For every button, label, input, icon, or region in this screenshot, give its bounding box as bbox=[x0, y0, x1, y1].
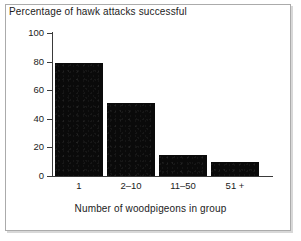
y-axis-tick-label: 100 bbox=[0, 28, 44, 37]
bar bbox=[159, 155, 207, 176]
y-axis-tick-label-text: 40 bbox=[0, 114, 44, 123]
y-axis-tick-label-text: 80 bbox=[0, 57, 44, 66]
x-axis-tick-label: 51 + bbox=[211, 180, 259, 191]
x-axis-tick-label: 11–50 bbox=[159, 180, 207, 191]
x-axis-tick-label: 1 bbox=[55, 180, 103, 191]
y-axis-tick-label-text: 60 bbox=[0, 85, 44, 94]
y-axis-tick bbox=[47, 176, 52, 177]
y-axis-tick-label: 60 bbox=[0, 85, 44, 94]
y-axis-tick-label: 20 bbox=[0, 142, 44, 151]
x-axis-title: Number of woodpigeons in group bbox=[0, 203, 301, 214]
y-axis-tick-label: 40 bbox=[0, 114, 44, 123]
chart-title: Percentage of hawk attacks successful bbox=[9, 6, 187, 17]
x-axis-tick-label: 2–10 bbox=[107, 180, 155, 191]
x-axis-line bbox=[52, 176, 273, 177]
bar bbox=[55, 63, 103, 176]
plot-area bbox=[52, 33, 272, 176]
y-axis-tick-label: 0 bbox=[0, 171, 44, 180]
y-axis-tick-label-text: 0 bbox=[0, 171, 44, 180]
bar bbox=[211, 162, 259, 176]
y-axis-tick-label: 80 bbox=[0, 57, 44, 66]
y-axis-tick-label-text: 100 bbox=[0, 28, 44, 37]
y-axis-tick-label-text: 20 bbox=[0, 142, 44, 151]
bar bbox=[107, 103, 155, 176]
